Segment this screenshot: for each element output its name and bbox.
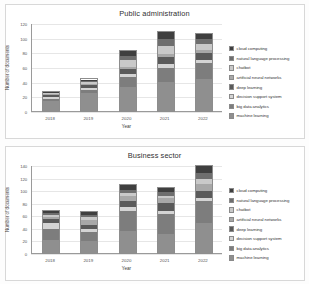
x-axis-tick: 2019 — [83, 258, 93, 263]
bar-segment — [81, 232, 97, 241]
chart-legend: cloud computingnatural language processi… — [229, 186, 289, 263]
plot-area: 020406080100120 — [31, 24, 222, 112]
x-axis-tick: 2018 — [45, 258, 55, 263]
bar-segment — [158, 234, 174, 253]
legend-swatch-icon — [229, 188, 234, 193]
legend-label: deep learning — [237, 227, 262, 232]
legend-item[interactable]: big data analytics — [229, 102, 289, 112]
stacked-bar — [80, 78, 98, 112]
bar-segment — [158, 203, 174, 211]
gridline — [31, 24, 222, 25]
legend-swatch-icon — [229, 246, 234, 251]
legend-item[interactable]: cloud computing — [229, 44, 289, 54]
y-axis-tick: 40 — [13, 226, 27, 231]
bar-segment — [196, 184, 212, 191]
stacked-bar — [157, 31, 175, 112]
bar-segment — [120, 211, 136, 231]
y-axis-tick: 120 — [13, 22, 27, 27]
stacked-bar — [119, 184, 137, 255]
legend-label: decision support system — [237, 94, 282, 99]
bar-segment — [158, 46, 174, 54]
legend-item[interactable]: decision support system — [229, 234, 289, 244]
legend-swatch-icon — [229, 94, 234, 99]
legend-item[interactable]: big data analytics — [229, 244, 289, 254]
y-axis-tick: 100 — [13, 36, 27, 41]
bar-segment — [196, 223, 212, 253]
gridline — [31, 166, 222, 167]
legend-item[interactable]: chatbot — [229, 63, 289, 73]
legend-item[interactable]: deep learning — [229, 82, 289, 92]
y-axis-tick: 120 — [13, 176, 27, 181]
legend-label: chatbot — [237, 207, 251, 212]
legend-item[interactable]: natural language processing — [229, 196, 289, 206]
chart-title: Public administration — [0, 9, 309, 18]
legend-label: cloud computing — [237, 46, 268, 51]
bar-segment — [196, 191, 212, 199]
y-axis-line — [31, 24, 32, 112]
x-axis-tick: 2022 — [198, 258, 208, 263]
y-axis-label: Number of documents — [5, 24, 10, 112]
y-axis-line — [31, 166, 32, 254]
legend-item[interactable]: machine learning — [229, 253, 289, 263]
legend-swatch-icon — [229, 75, 234, 80]
legend-swatch-icon — [229, 56, 234, 61]
legend-label: artificial neural networks — [237, 217, 282, 222]
legend-label: machine learning — [237, 113, 269, 118]
bar-segment — [158, 57, 174, 64]
legend-label: big data analytics — [237, 104, 269, 109]
y-axis-tick: 140 — [13, 164, 27, 169]
y-axis-tick: 100 — [13, 189, 27, 194]
legend-item[interactable]: decision support system — [229, 92, 289, 102]
bar-segment — [158, 32, 174, 39]
gridline — [31, 112, 222, 113]
legend-swatch-icon — [229, 236, 234, 241]
legend-item[interactable]: artificial neural networks — [229, 73, 289, 83]
legend-swatch-icon — [229, 255, 234, 260]
bar-segment — [43, 240, 59, 253]
bar-segment — [158, 82, 174, 111]
bar-segment — [120, 87, 136, 111]
legend-item[interactable]: machine learning — [229, 111, 289, 121]
bar-segment — [196, 79, 212, 111]
bar-segment — [81, 93, 97, 111]
y-axis-tick: 60 — [13, 214, 27, 219]
x-axis-tick: 2020 — [122, 116, 132, 121]
legend-item[interactable]: artificial neural networks — [229, 215, 289, 225]
legend-swatch-icon — [229, 217, 234, 222]
bar-segment — [120, 231, 136, 253]
bar-segment — [43, 101, 59, 111]
gridline — [31, 179, 222, 180]
x-axis-tick: 2018 — [45, 116, 55, 121]
legend-label: natural language processing — [237, 198, 290, 203]
y-axis-label: Number of documents — [5, 166, 10, 254]
figure-container: Public administration 020406080100120 Nu… — [0, 0, 309, 284]
legend-swatch-icon — [229, 84, 234, 89]
legend-item[interactable]: chatbot — [229, 205, 289, 215]
y-axis-tick: 0 — [13, 252, 27, 257]
gridline — [31, 254, 222, 255]
legend-item[interactable]: deep learning — [229, 224, 289, 234]
legend-item[interactable]: cloud computing — [229, 186, 289, 196]
legend-swatch-icon — [229, 46, 234, 51]
bar-segment — [158, 68, 174, 83]
legend-item[interactable]: natural language processing — [229, 54, 289, 64]
legend-label: chatbot — [237, 65, 251, 70]
chart-title: Business sector — [0, 151, 309, 160]
x-axis-tick: 2021 — [160, 116, 170, 121]
y-axis-tick: 80 — [13, 51, 27, 56]
legend-label: big data analytics — [237, 246, 269, 251]
stacked-bar — [195, 33, 213, 112]
legend-label: cloud computing — [237, 188, 268, 193]
legend-label: decision support system — [237, 236, 282, 241]
chart-panel-public-administration: Public administration 020406080100120 Nu… — [0, 0, 309, 142]
bar-segment — [120, 60, 136, 67]
stacked-bar — [80, 211, 98, 254]
x-axis-label: Year — [0, 266, 282, 271]
bar-segment — [81, 241, 97, 253]
x-axis-label: Year — [0, 124, 282, 129]
chart-legend: cloud computingnatural language processi… — [229, 44, 289, 121]
legend-swatch-icon — [229, 113, 234, 118]
bar-segment — [196, 53, 212, 60]
stacked-bar — [42, 91, 60, 112]
chart-panel-business-sector: Business sector 020406080100120140 Numbe… — [0, 142, 309, 284]
